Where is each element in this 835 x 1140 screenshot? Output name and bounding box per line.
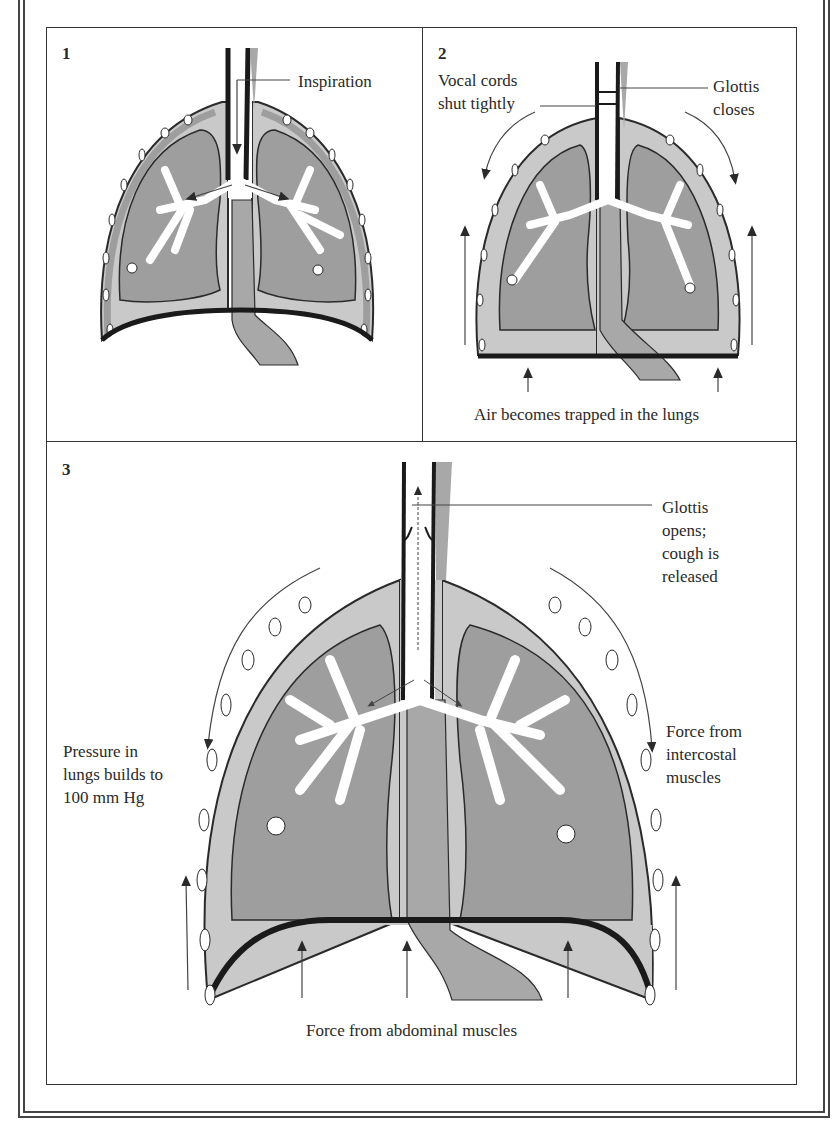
label-glottis-closes-2: closes (713, 99, 755, 121)
label-glottis-closes-1: Glottis (713, 76, 759, 98)
label-intercostal-1: Force from (666, 721, 742, 743)
label-glottis-opens-1: Glottis (662, 497, 708, 519)
label-glottis-opens-3: cough is (662, 543, 719, 565)
panel-3-lungs (186, 462, 676, 1005)
panel-2-number: 2 (438, 44, 447, 64)
label-abdominal: Force from abdominal muscles (306, 1020, 517, 1042)
panel-1-lungs (101, 48, 373, 365)
label-air-trapped: Air becomes trapped in the lungs (474, 404, 699, 426)
label-glottis-opens-2: opens; (662, 520, 706, 542)
label-glottis-opens-4: released (662, 566, 718, 588)
label-pressure-1: Pressure in (63, 741, 138, 763)
label-vocal-cords-1: Vocal cords (438, 70, 517, 92)
label-pressure-3: 100 mm Hg (63, 787, 144, 809)
label-pressure-2: lungs builds to (63, 764, 163, 786)
label-intercostal-3: muscles (666, 767, 721, 789)
label-intercostal-2: intercostal (666, 744, 737, 766)
panel-1-number: 1 (62, 44, 71, 64)
panel-3-number: 3 (62, 460, 71, 480)
label-vocal-cords-2: shut tightly (438, 93, 515, 115)
label-inspiration: Inspiration (298, 71, 372, 93)
